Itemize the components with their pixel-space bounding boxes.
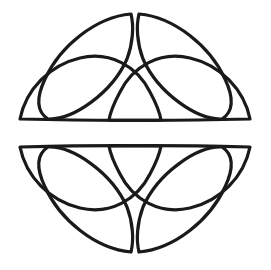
figure-canvas: [0, 0, 271, 270]
petal-knot-figure: [0, 0, 271, 270]
background-rect: [0, 0, 271, 270]
